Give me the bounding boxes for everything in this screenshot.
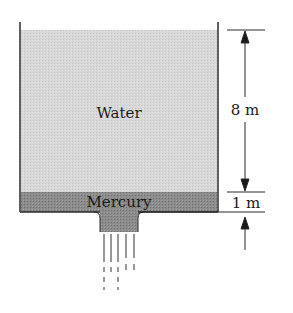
- tank-diagram: Water Mercury 8 m 1 m: [0, 0, 293, 313]
- draining-streams: [104, 234, 134, 290]
- outlet-nozzle: [100, 212, 144, 232]
- arrow-up-icon: [241, 31, 249, 43]
- mercury-label: Mercury: [86, 193, 152, 211]
- water-height-label: 8 m: [231, 101, 260, 119]
- arrow-up-icon: [241, 217, 249, 229]
- mercury-height-label: 1 m: [232, 194, 261, 212]
- arrow-down-icon: [241, 179, 249, 191]
- water-label: Water: [96, 104, 142, 122]
- dimension-lines: [227, 30, 265, 250]
